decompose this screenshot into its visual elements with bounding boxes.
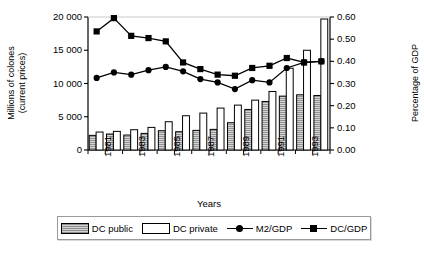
x-axis-tick-label: 1983 — [136, 136, 147, 157]
y-axis-right-tick-label: 0.50 — [337, 34, 371, 44]
marker-dc-gdp[interactable] — [215, 72, 221, 78]
legend-label: DC private — [173, 223, 218, 234]
marker-dc-gdp[interactable] — [284, 55, 290, 61]
legend-label: M2/GDP — [256, 223, 292, 234]
y-axis-right-tick-label: 0.00 — [337, 145, 371, 155]
marker-m2-gdp[interactable] — [128, 72, 134, 78]
marker-m2-gdp[interactable] — [111, 69, 117, 75]
x-axis-tick-label: 1985 — [171, 136, 182, 157]
bar-dc-public[interactable] — [297, 95, 304, 150]
legend-item-m2-gdp[interactable]: M2/GDP — [227, 223, 292, 234]
legend-label: DC public — [92, 223, 133, 234]
y-axis-left-tick-label: 10 000 — [30, 79, 82, 89]
legend-label: DC/GDP — [330, 223, 367, 234]
y-axis-right-tick-label: 0.20 — [337, 101, 371, 111]
y-axis-right-tick-label: 0.60 — [337, 12, 371, 22]
y-axis-left-tick-label: 15 000 — [30, 45, 82, 55]
marker-dc-gdp[interactable] — [111, 15, 117, 21]
y-axis-left-title: Millions of colones (current prices) — [2, 10, 32, 155]
chart-figure: Millions of colones (current prices) Per… — [0, 0, 424, 255]
marker-dc-gdp[interactable] — [318, 58, 324, 64]
marker-dc-gdp[interactable] — [94, 28, 100, 34]
y-axis-left-tick-label: 0 — [30, 145, 82, 155]
marker-m2-gdp[interactable] — [266, 79, 272, 85]
marker-m2-gdp[interactable] — [284, 65, 290, 71]
bar-dc-private[interactable] — [148, 127, 155, 150]
bar-dc-public[interactable] — [124, 135, 131, 150]
marker-dc-gdp[interactable] — [232, 73, 238, 79]
legend-line-square-icon — [301, 224, 327, 233]
legend-item-dc-gdp[interactable]: DC/GDP — [301, 223, 367, 234]
marker-dc-gdp[interactable] — [128, 33, 134, 39]
marker-m2-gdp[interactable] — [180, 68, 186, 74]
marker-m2-gdp[interactable] — [249, 77, 255, 83]
bar-dc-public[interactable] — [158, 131, 165, 150]
marker-dc-gdp[interactable] — [266, 63, 272, 69]
legend-item-dc-public[interactable]: DC public — [61, 223, 133, 234]
legend-item-dc-private[interactable]: DC private — [142, 223, 218, 234]
bar-dc-private[interactable] — [217, 108, 224, 150]
marker-m2-gdp[interactable] — [197, 76, 203, 82]
bar-dc-private[interactable] — [286, 68, 293, 150]
x-axis-title: Years — [179, 198, 239, 209]
marker-dc-gdp[interactable] — [301, 59, 307, 65]
x-axis-tick-label: 1981 — [102, 136, 113, 157]
marker-m2-gdp[interactable] — [94, 75, 100, 81]
x-axis-tick-label: 1987 — [205, 136, 216, 157]
marker-dc-gdp[interactable] — [197, 66, 203, 72]
y-axis-right-tick-label: 0.30 — [337, 79, 371, 89]
y-axis-right-tick-label: 0.40 — [337, 56, 371, 66]
marker-dc-gdp[interactable] — [145, 35, 151, 41]
bar-dc-public[interactable] — [228, 123, 235, 150]
y-axis-right-tick-label: 0.10 — [337, 123, 371, 133]
marker-m2-gdp[interactable] — [215, 79, 221, 85]
x-axis-tick-label: 1989 — [240, 136, 251, 157]
x-axis-tick-label: 1991 — [275, 136, 286, 157]
bar-dc-public[interactable] — [262, 101, 269, 150]
y-axis-left-tick-label: 5 000 — [30, 112, 82, 122]
y-axis-left-title-line1: Millions of colones — [6, 46, 17, 120]
bar-dc-private[interactable] — [321, 19, 328, 150]
y-axis-left-tick-label: 20 000 — [30, 12, 82, 22]
y-axis-left-title-line2: (current prices) — [17, 46, 28, 120]
x-axis-tick-label: 1993 — [309, 136, 320, 157]
marker-dc-gdp[interactable] — [249, 65, 255, 71]
marker-dc-gdp[interactable] — [180, 59, 186, 65]
bar-dc-private[interactable] — [113, 131, 120, 150]
chart-legend: DC publicDC privateM2/GDPDC/GDP — [57, 216, 371, 240]
marker-m2-gdp[interactable] — [232, 86, 238, 92]
y-axis-right-title: Percentage of GDP — [407, 10, 423, 155]
bar-dc-public[interactable] — [89, 135, 96, 150]
marker-m2-gdp[interactable] — [163, 64, 169, 70]
bar-dc-private[interactable] — [252, 100, 259, 150]
marker-dc-gdp[interactable] — [163, 38, 169, 44]
legend-swatch-white-icon — [142, 223, 170, 234]
legend-swatch-hatched-icon — [61, 223, 89, 234]
legend-line-circle-icon — [227, 224, 253, 233]
bar-dc-private[interactable] — [183, 116, 190, 150]
marker-m2-gdp[interactable] — [145, 67, 151, 73]
bar-dc-public[interactable] — [193, 130, 200, 150]
